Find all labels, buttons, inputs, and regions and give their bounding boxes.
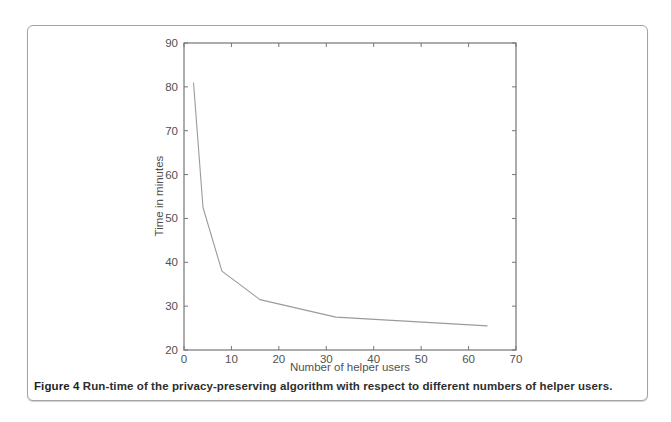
y-tick-label: 40 bbox=[165, 256, 178, 268]
x-tick-label: 10 bbox=[225, 353, 238, 365]
figure-caption-label: Figure 4 bbox=[34, 380, 80, 392]
page-background: 0102030405060702030405060708090 Number o… bbox=[0, 0, 671, 422]
plot-frame bbox=[184, 43, 516, 350]
x-tick-label: 50 bbox=[415, 353, 428, 365]
figure-caption-text: Run-time of the privacy-preserving algor… bbox=[83, 380, 613, 392]
y-axis-label: Time in minutes bbox=[153, 155, 165, 236]
y-tick-label: 90 bbox=[165, 37, 178, 49]
y-tick-label: 60 bbox=[165, 169, 178, 181]
x-tick-label: 60 bbox=[462, 353, 475, 365]
y-tick-label: 70 bbox=[165, 125, 178, 137]
figure-caption: Figure 4 Run-time of the privacy-preserv… bbox=[34, 379, 634, 393]
y-tick-label: 80 bbox=[165, 81, 178, 93]
x-axis-label: Number of helper users bbox=[290, 361, 410, 373]
x-tick-label: 20 bbox=[272, 353, 285, 365]
figure-panel: 0102030405060702030405060708090 Number o… bbox=[27, 25, 648, 401]
x-tick-label: 0 bbox=[181, 353, 187, 365]
x-tick-label: 70 bbox=[510, 353, 523, 365]
y-tick-label: 30 bbox=[165, 300, 178, 312]
data-line bbox=[194, 83, 488, 326]
runtime-line-chart: 0102030405060702030405060708090 Number o… bbox=[28, 26, 647, 400]
chart-axes-group: 0102030405060702030405060708090 bbox=[165, 37, 522, 365]
y-tick-label: 50 bbox=[165, 212, 178, 224]
y-tick-label: 20 bbox=[165, 344, 178, 356]
